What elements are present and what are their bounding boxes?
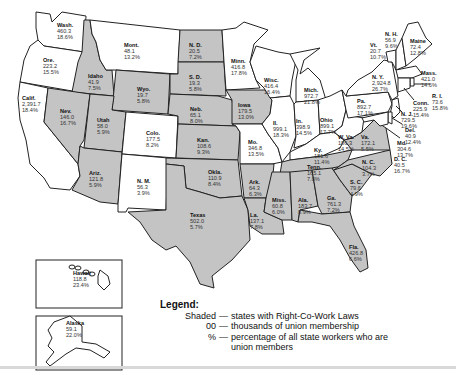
label-wv: W. Va.186.314.5%	[338, 134, 354, 152]
bottom-divider	[0, 366, 456, 369]
legend-row-percent: % — percentage of all state workers who …	[160, 332, 401, 353]
legend: Legend: Shaded — states with Right-Co-Wo…	[160, 300, 401, 353]
label-il: Il.999.118.3%	[273, 120, 289, 138]
state-ct	[398, 78, 410, 92]
label-oh: Ohio899.117.7%	[320, 117, 336, 135]
label-ga: Ga.761.37.2%	[327, 195, 341, 213]
legend-desc: states with Right-Co-Work Laws	[231, 311, 401, 322]
label-nc: N. C.104.33.7%	[362, 159, 376, 177]
label-ky: Ky.181.611.4%	[314, 147, 329, 165]
label-me: Maine72.412.8%	[410, 38, 426, 56]
label-ca: Calif.2,391.718.4%	[22, 95, 41, 113]
label-ma: Mass.421.014.6%	[421, 70, 437, 88]
label-fl: Fla.426.86.6%	[349, 244, 363, 262]
label-al: Ala.183.78.9%	[298, 197, 312, 215]
label-co: Colo.177.58.2%	[146, 130, 160, 148]
label-nh: N. H.56.99.6%	[385, 31, 398, 49]
label-mi: Mich.972.721.8%	[304, 87, 320, 105]
label-or: Ore.223.215.5%	[43, 57, 59, 75]
legend-title: Legend:	[160, 300, 401, 311]
label-la: La.137.17.8%	[250, 212, 264, 230]
label-ny: N. Y.2,924.826.7%	[372, 74, 391, 92]
legend-dash: —	[219, 311, 231, 322]
label-dc: D. C.40.516.7%	[394, 156, 410, 174]
label-id: Idaho41.97.5%	[88, 73, 103, 91]
label-pa: Pa.892.717.1%	[357, 98, 373, 116]
label-ms: Miss.60.86.0%	[272, 197, 286, 215]
label-ut: Utah58.05.9%	[97, 117, 110, 135]
label-ia: Iowa179.513.0%	[238, 102, 254, 120]
label-wy: Wyo.19.75.8%	[137, 86, 150, 104]
label-mt: Mont.48.113.2%	[124, 42, 140, 60]
legend-key: %	[160, 332, 219, 353]
label-ks: Kan.108.69.3%	[197, 137, 211, 155]
legend-row-thousands: 00 — thousands of union membership	[160, 321, 401, 332]
label-tx: Texas502.05.7%	[190, 212, 205, 230]
label-ri: R. I.73.615.8%	[432, 93, 448, 111]
label-ar: Ark.64.36.3%	[249, 179, 262, 197]
leader-line-md	[386, 128, 400, 138]
legend-key: Shaded	[160, 311, 219, 322]
legend-dash: —	[219, 321, 231, 332]
label-mn: Minn.416.817.8%	[231, 58, 247, 76]
label-wa: Wash.460.318.6%	[57, 22, 73, 40]
legend-desc: thousands of union membership	[231, 321, 401, 332]
label-wi: Wisc.416.416.4%	[264, 77, 280, 95]
legend-desc: percentage of all state workers who are …	[231, 332, 401, 353]
label-ak: Alaska59.122.0%	[66, 320, 84, 338]
legend-dash: —	[219, 332, 231, 353]
legend-row-shaded: Shaded — states with Right-Co-Work Laws	[160, 311, 401, 322]
state-fl	[298, 210, 368, 272]
label-vt: Vt.20.710.7%	[370, 42, 386, 60]
label-hi: Hawaii118.823.4%	[73, 270, 91, 288]
state-ri	[410, 78, 414, 86]
label-nm: N. M.56.33.9%	[137, 178, 150, 196]
state-de	[388, 112, 392, 124]
label-nd: N. D.20.57.2%	[189, 42, 202, 60]
leader-line-ct	[404, 88, 414, 100]
label-mo: Mo.346.813.5%	[248, 139, 264, 157]
label-sc: S. C.79.64.9%	[350, 179, 363, 197]
label-sd: S. D.19.35.8%	[189, 74, 202, 92]
label-nv: Nev.146.016.7%	[60, 108, 76, 126]
label-ne: Neb.65.18.0%	[190, 106, 203, 124]
legend-key: 00	[160, 321, 219, 332]
label-az: Ariz.121.85.9%	[89, 170, 103, 188]
label-ok: Okla.110.98.4%	[208, 169, 222, 187]
label-in: In.398.914.5%	[296, 118, 312, 136]
label-va: Va.172.15.5%	[361, 134, 375, 152]
label-tn: Tenn.165.17.8%	[307, 164, 322, 182]
